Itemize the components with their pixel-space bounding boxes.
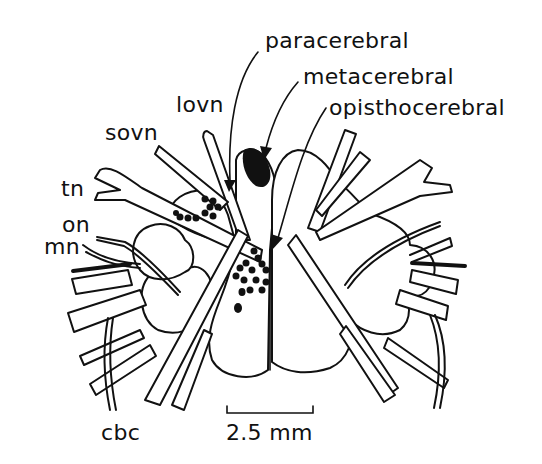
label-tn: tn: [61, 178, 84, 200]
label-on: on: [62, 214, 90, 236]
label-sovn: sovn: [105, 122, 158, 144]
diagram-figure: paracerebral metacerebral opisthocerebra…: [0, 0, 542, 464]
scale-bar: [227, 406, 313, 413]
label-cbc: cbc: [101, 422, 140, 444]
label-metacerebral: metacerebral: [303, 66, 454, 88]
scale-bar-label: 2.5 mm: [226, 422, 313, 444]
label-paracerebral: paracerebral: [265, 30, 409, 52]
label-mn: mn: [44, 236, 80, 258]
label-lovn: lovn: [176, 94, 224, 116]
label-opisthocerebral: opisthocerebral: [329, 97, 505, 119]
